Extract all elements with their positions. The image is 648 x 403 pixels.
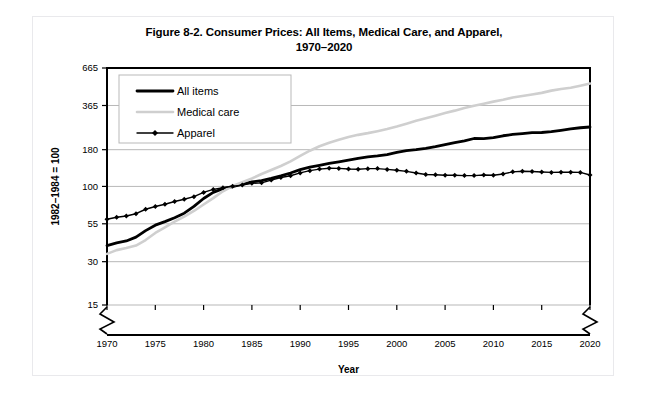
chart-legend: All itemsMedical careApparel <box>119 75 291 143</box>
series-line-apparel <box>107 168 590 219</box>
series-marker-apparel <box>530 169 535 174</box>
x-tick-label: 1970 <box>96 338 117 349</box>
series-marker-apparel <box>105 217 110 222</box>
series-marker-apparel <box>404 169 409 174</box>
series-marker-apparel <box>114 215 119 220</box>
series-marker-apparel <box>588 173 593 178</box>
legend-label: Apparel <box>177 127 215 139</box>
x-axis-ticks: 1970197519801985199019952000200520102015… <box>96 305 600 349</box>
series-marker-apparel <box>568 170 573 175</box>
figure-container: Figure 8-2. Consumer Prices: All Items, … <box>32 16 614 376</box>
x-tick-label: 1975 <box>145 338 166 349</box>
series-marker-apparel <box>462 173 467 178</box>
series-marker-apparel <box>578 170 583 175</box>
axis-break-symbols <box>100 307 597 334</box>
legend-label: All items <box>177 85 219 97</box>
x-tick-label: 1990 <box>290 338 311 349</box>
series-marker-apparel <box>124 213 129 218</box>
series-marker-apparel <box>423 172 428 177</box>
x-tick-label: 2020 <box>579 338 600 349</box>
y-tick-label: 100 <box>82 181 98 192</box>
y-tick-label: 180 <box>82 144 98 155</box>
series-marker-apparel <box>317 167 322 172</box>
series-marker-apparel <box>559 170 564 175</box>
series-marker-apparel <box>501 171 506 176</box>
y-axis-ticks: 153055100180365665 <box>82 62 107 310</box>
x-tick-label: 1995 <box>338 338 359 349</box>
y-tick-label: 665 <box>82 62 98 73</box>
series-marker-apparel <box>182 197 187 202</box>
series-marker-apparel <box>510 169 515 174</box>
series-marker-apparel <box>385 167 390 172</box>
series-marker-apparel <box>472 173 477 178</box>
x-axis-title: Year <box>338 364 359 375</box>
series-marker-apparel <box>443 173 448 178</box>
x-tick-label: 2015 <box>531 338 552 349</box>
series-marker-apparel <box>143 207 148 212</box>
series-marker-apparel <box>452 173 457 178</box>
x-tick-label: 2000 <box>386 338 407 349</box>
x-tick-label: 1980 <box>193 338 214 349</box>
series-marker-apparel <box>356 167 361 172</box>
series-marker-apparel <box>481 172 486 177</box>
series-marker-apparel <box>375 166 380 171</box>
series-marker-apparel <box>346 167 351 172</box>
series-marker-apparel <box>491 173 496 178</box>
legend-label: Medical care <box>177 106 239 118</box>
series-marker-apparel <box>153 204 158 209</box>
series-marker-apparel <box>394 168 399 173</box>
series-marker-apparel <box>336 166 341 171</box>
series-marker-apparel <box>520 169 525 174</box>
x-tick-label: 2010 <box>483 338 504 349</box>
series-marker-apparel <box>414 170 419 175</box>
chart-plot: 153055100180365665 197019751980198519901… <box>33 17 615 377</box>
series-marker-apparel <box>162 202 167 207</box>
series-marker-apparel <box>133 211 138 216</box>
x-tick-label: 1985 <box>241 338 262 349</box>
series-marker-apparel <box>539 170 544 175</box>
series-marker-apparel <box>201 190 206 195</box>
series-marker-apparel <box>549 170 554 175</box>
x-tick-label: 2005 <box>435 338 456 349</box>
series-marker-apparel <box>327 166 332 171</box>
y-tick-label: 30 <box>87 256 98 267</box>
series-marker-apparel <box>172 199 177 204</box>
y-tick-label: 365 <box>82 100 98 111</box>
series-marker-apparel <box>191 194 196 199</box>
y-tick-label: 15 <box>87 299 98 310</box>
y-axis-title: 1982–1984 = 100 <box>50 147 61 226</box>
series-marker-apparel <box>433 172 438 177</box>
series-marker-apparel <box>365 166 370 171</box>
y-tick-label: 55 <box>87 218 98 229</box>
